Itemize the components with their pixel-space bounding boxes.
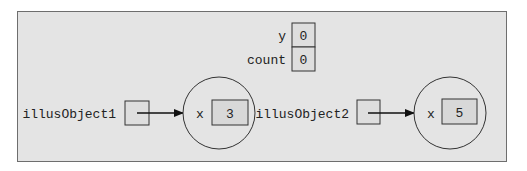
field-label-2: x bbox=[427, 107, 435, 122]
ref-label-1: illusObject1 bbox=[22, 107, 116, 122]
object-2-group: illusObject2 x 5 bbox=[255, 77, 486, 149]
ref-box-2 bbox=[357, 100, 380, 124]
field-value-2: 5 bbox=[456, 106, 464, 121]
y-label: y bbox=[278, 29, 286, 44]
count-value: 0 bbox=[300, 53, 308, 68]
count-label: count bbox=[247, 53, 286, 68]
static-vars: y count 0 0 bbox=[247, 23, 315, 71]
memory-diagram: y count 0 0 illusObject1 x 3 illusObject… bbox=[0, 0, 527, 171]
ref-label-2: illusObject2 bbox=[255, 107, 349, 122]
field-label-1: x bbox=[196, 107, 204, 122]
field-value-1: 3 bbox=[226, 107, 234, 122]
y-value: 0 bbox=[300, 29, 308, 44]
object-1-group: illusObject1 x 3 bbox=[22, 77, 255, 149]
